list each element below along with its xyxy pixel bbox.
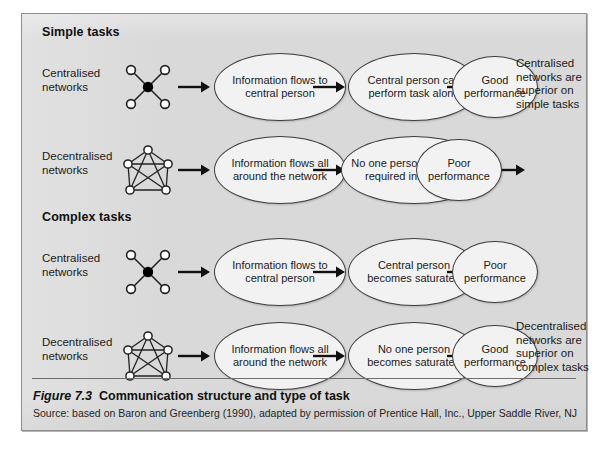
figure-caption: Figure 7.3 Communication structure and t… <box>33 389 350 403</box>
figure-source: Source: based on Baron and Greenberg (19… <box>33 407 577 419</box>
arrow-right-icon <box>177 163 211 177</box>
flow-row-simple-decentralised: Decentralised networks <box>22 128 586 212</box>
row-label-decentralised-networks: Decentralised networks <box>42 336 120 363</box>
section-heading-simple-tasks: Simple tasks <box>42 25 120 39</box>
decentralised-network-icon <box>120 328 176 384</box>
section-heading-complex-tasks: Complex tasks <box>42 210 132 224</box>
row-label-centralised-networks: Centralised networks <box>42 252 120 279</box>
arrow-right-icon <box>312 80 346 94</box>
arrow-right-icon <box>177 349 211 363</box>
figure-panel: Simple tasks Centralised networks <box>21 13 587 431</box>
conclusion-note-simple-tasks: Centralised networks are superior on sim… <box>516 57 596 111</box>
decentralised-network-icon <box>120 142 176 198</box>
figure-caption-title: Communication structure and type of task <box>99 389 350 403</box>
arrow-right-icon <box>177 80 211 94</box>
flow-node-poor-performance: Poor performance <box>416 139 502 201</box>
caption-divider <box>32 378 576 379</box>
arrow-right-icon <box>312 265 346 279</box>
row-label-decentralised-networks: Decentralised networks <box>42 150 120 177</box>
conclusion-note-complex-tasks: Decentralised networks are superior on c… <box>516 320 596 374</box>
arrow-right-icon <box>312 349 346 363</box>
figure-number: Figure 7.3 <box>33 389 92 403</box>
flow-row-complex-decentralised: Decentralised networks <box>22 314 586 398</box>
centralised-network-icon <box>120 244 176 300</box>
arrow-right-icon <box>177 265 211 279</box>
centralised-network-icon <box>120 59 176 115</box>
row-label-centralised-networks: Centralised networks <box>42 67 120 94</box>
flow-row-complex-centralised: Centralised networks <box>22 230 586 314</box>
flow-node-poor-performance: Poor performance <box>452 241 538 303</box>
flow-row-simple-centralised: Centralised networks <box>22 45 586 129</box>
